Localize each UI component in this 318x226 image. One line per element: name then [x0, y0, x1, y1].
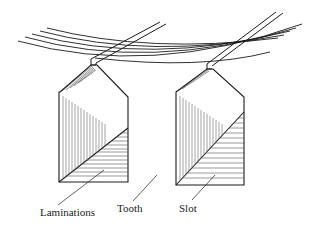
tooth-leader — [133, 175, 157, 201]
slot-label: Slot — [179, 202, 197, 214]
right-tooth-block — [176, 69, 244, 185]
lamination-arcs — [18, 24, 302, 63]
laminations-label: Laminations — [40, 206, 95, 218]
left-tooth-block — [59, 65, 128, 182]
slot-leader — [192, 175, 215, 200]
laminations-leader — [58, 170, 104, 205]
stator-slot-diagram: Laminations Tooth Slot — [0, 0, 318, 226]
tooth-label: Tooth — [117, 202, 143, 214]
